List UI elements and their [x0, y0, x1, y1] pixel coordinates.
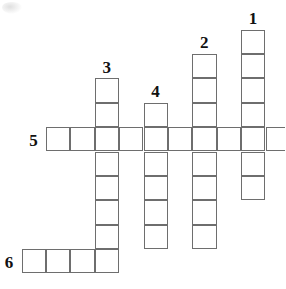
crossword-cell[interactable] [95, 103, 119, 127]
crossword-cell[interactable] [95, 176, 119, 200]
crossword-cell[interactable] [241, 176, 265, 200]
crossword-cell[interactable] [241, 78, 265, 102]
crossword-cell[interactable] [119, 127, 143, 151]
crossword-cell[interactable] [144, 127, 168, 151]
crossword-cell[interactable] [22, 249, 46, 273]
crossword-cell[interactable] [144, 176, 168, 200]
crossword-cell[interactable] [192, 225, 216, 249]
clue-number-3: 3 [95, 59, 119, 76]
crossword-cell[interactable] [192, 176, 216, 200]
crossword-cell[interactable] [192, 152, 216, 176]
clue-number-6: 6 [0, 254, 21, 271]
crossword-cell[interactable] [192, 127, 216, 151]
crossword-cell[interactable] [192, 200, 216, 224]
crossword-cell[interactable] [241, 152, 265, 176]
crossword-cell[interactable] [46, 127, 70, 151]
clue-number-5: 5 [22, 132, 46, 149]
crossword-cell[interactable] [144, 152, 168, 176]
crossword-cell[interactable] [144, 225, 168, 249]
crossword-cell[interactable] [168, 127, 192, 151]
crossword-cell[interactable] [144, 200, 168, 224]
crossword-cell[interactable] [217, 127, 241, 151]
crossword-cell[interactable] [95, 127, 119, 151]
crossword-cell[interactable] [70, 249, 94, 273]
crossword-cell[interactable] [241, 103, 265, 127]
crossword-cell[interactable] [95, 78, 119, 102]
clue-number-4: 4 [144, 83, 168, 100]
crossword-cell[interactable] [192, 54, 216, 78]
clue-number-2: 2 [192, 34, 216, 51]
crossword-cell[interactable] [95, 152, 119, 176]
crossword-cell[interactable] [46, 249, 70, 273]
crossword-cell[interactable] [95, 225, 119, 249]
crossword-cell[interactable] [266, 127, 286, 151]
crossword-cell[interactable] [241, 54, 265, 78]
crossword-cell[interactable] [192, 103, 216, 127]
crossword-cell[interactable] [241, 30, 265, 54]
crossword-cell[interactable] [192, 78, 216, 102]
crossword-puzzle: 123456 [0, 0, 285, 289]
crossword-cell[interactable] [70, 127, 94, 151]
clue-number-1: 1 [241, 10, 265, 27]
crossword-cell[interactable] [144, 103, 168, 127]
crossword-cell[interactable] [95, 249, 119, 273]
crossword-cell[interactable] [241, 127, 265, 151]
crossword-cell[interactable] [95, 200, 119, 224]
paper-smudge-artifact [2, 2, 22, 14]
